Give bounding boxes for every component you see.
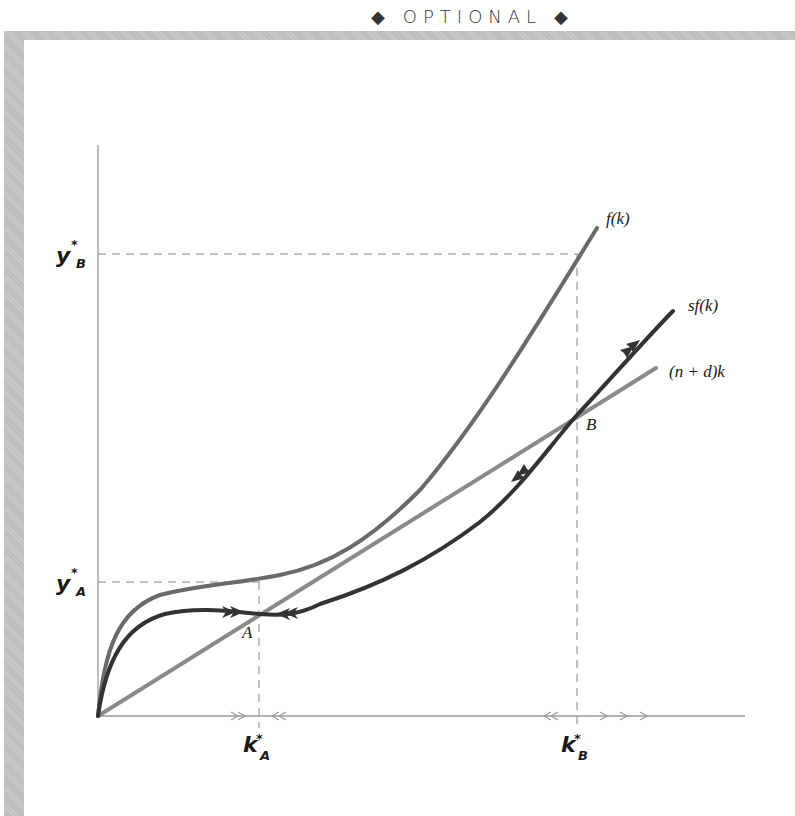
svg-text:*: * [256, 731, 263, 746]
svg-text:B: B [76, 256, 86, 271]
y-b-tick-label: y * B [56, 237, 86, 271]
svg-text:y: y [56, 571, 72, 596]
svg-text:B: B [578, 748, 588, 763]
point-b-label: B [586, 415, 597, 434]
solow-poverty-trap-chart: f(k) sf(k) (n + d)k A B y * B y * A k * … [0, 0, 795, 816]
sf-curve-label: sf(k) [688, 296, 719, 315]
svg-text:A: A [75, 584, 86, 599]
ndk-line-label: (n + d)k [669, 362, 725, 381]
svg-text:*: * [71, 565, 78, 580]
svg-text:A: A [259, 748, 270, 763]
k-a-tick-label: k * A [243, 731, 270, 763]
svg-text:y: y [56, 243, 72, 268]
saving-curve [98, 311, 673, 716]
point-a-label: A [241, 623, 253, 642]
f-curve-label: f(k) [606, 209, 630, 228]
y-a-tick-label: y * A [56, 565, 86, 599]
k-b-tick-label: k * B [561, 731, 588, 763]
svg-text:*: * [71, 237, 78, 252]
svg-text:*: * [574, 731, 581, 746]
guide-lines [98, 254, 578, 728]
